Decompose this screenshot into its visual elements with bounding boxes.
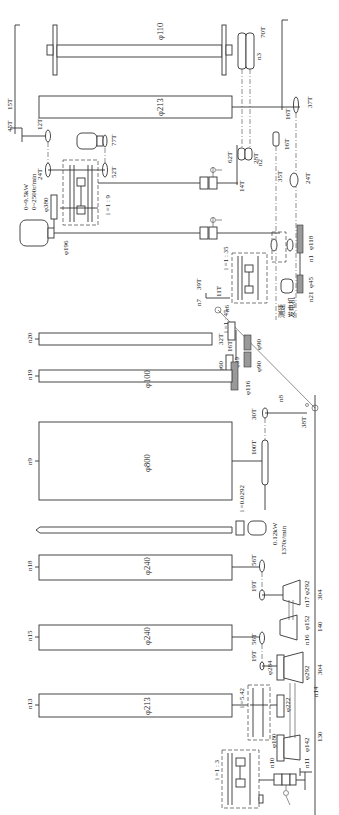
gear-100T-icon [262,440,268,485]
gear-cluster-n1-icon [271,239,277,251]
pulley-phi116-label: φ116 [244,380,252,395]
pivot-icon-38T [306,404,309,407]
gear-37T-icon [294,97,299,113]
needle-roller [36,527,232,533]
roller-phi110 [47,25,232,75]
roller-n13-label: φ213 [142,697,152,715]
small-motor-speed: 1370r/min [280,525,288,555]
main-motor-speed: 0~2500r/min [30,173,38,210]
gearbox-1-35 [232,253,267,303]
speed-n11-label: n11 [303,757,311,768]
gear-35T-label: 35T [276,170,284,182]
gearbox-1-3-ratio: i =1 : 3 [213,759,221,780]
gear-70T-label: 70T [259,26,267,38]
gear-24T-icon-b [290,173,298,187]
gear-56T-label-b: 56T [250,633,258,645]
gear-16T-label-c: 16T [226,340,234,352]
speed-n20-label: n20 [26,332,34,343]
gear-14T-label: 14T [238,180,246,192]
dimension-304-a: 304 [316,589,324,600]
gear-16T-label-b: 16T [283,138,291,150]
speed-n8-label: n8 [277,395,285,403]
small-motor-ratio: i =0.0292 [238,485,246,512]
gear-52T-label: 52T [110,166,118,178]
roller-top-phi213-label: φ213 [155,98,165,116]
gear-62T-label: 62T [226,151,234,163]
gear-100T-label: 100T [250,440,258,456]
speed-n10-label: n10 [268,757,276,768]
gearbox-1-3 [222,750,263,808]
pulley-phi90-b [244,352,251,367]
gear-15T-label: 15T [6,98,14,110]
gear-39T-label: 39T [195,278,203,290]
speed-n7-label: n7 [195,299,203,307]
speed-n1-label: n1 [307,255,315,263]
drum-n9-label: φ800 [142,454,152,472]
small-motor-power: 0.12kW [271,522,279,545]
pulley-phi90-label-b: φ90 [255,360,263,372]
drum-n9 [39,422,232,500]
speed-n14-label: n14 [312,686,320,697]
pulley-phi292-label-b: φ292 [303,665,311,680]
gear-77T-label: 77T [110,134,118,146]
gear-12T-icon [46,130,51,142]
pulley-phi380-label: φ380 [42,197,50,212]
gear-11T-label: 11T [215,285,223,297]
small-motor-icon [248,521,266,535]
tachogenerator-label-1: 测速 [278,304,286,318]
pulley-phi284 [277,655,284,680]
speed-n16-label: n16 [303,634,311,645]
gearbox-5-42 [248,685,270,740]
pulley-phi196-label: φ196 [62,240,70,255]
gear-motor-77T-icon [77,133,107,149]
dimension-130: 130 [316,731,324,742]
speed-n9-label: n9 [26,458,34,466]
pulley-phi45-label: φ45 [307,276,315,288]
main-motor-power: 0~9.5kW [22,183,30,210]
dimension-304-b: 304 [316,664,324,675]
pulley-phi380 [51,195,57,219]
brake-coupling-bottom [274,774,296,805]
gear-16T-icon-b [273,132,279,146]
gear-37T-label: 37T [306,96,314,108]
right-shaft-16T-37T [282,20,288,110]
tachogenerator-label-2: 发电机 [287,297,296,318]
pulley-phi90-label-a: φ90 [255,338,263,350]
roller-n15-label: φ240 [142,627,152,645]
gear-56T-label-a: 56T [250,554,258,566]
gear-30T-label: 30T [250,408,258,420]
gear-45T-label: 45T [6,120,14,132]
roller-n18-label: φ240 [142,557,152,575]
roller-n19 [39,370,232,382]
roller-phi110-label: φ110 [155,23,165,40]
brake-coupling-upper [200,167,222,189]
roller-n18 [39,555,232,580]
pulley-phi152-label: φ152 [303,615,311,630]
main-motor-icon [20,220,54,246]
speed-n3-label: n3 [255,53,263,61]
gear-32T-label: 32T [217,333,225,345]
pulley-phi45 [297,275,303,293]
brake-coupling-lower [200,217,222,239]
pulley-phi292-label-a: φ292 [303,580,311,595]
pulley-phi90-a [244,335,251,350]
gear-38T-label: 38T [300,416,308,428]
speed-n18-label: n18 [26,560,34,571]
gear-16T-label-a: 16T [284,108,292,120]
gear-24T-label-b: 24T [304,172,312,184]
cone-pulley-n14 [284,652,303,683]
gearbox-1-35-ratio: i =1 : 35 [222,246,230,270]
pulley-phi118-label: φ118 [307,235,315,250]
gear-cluster-n1-icon-b [287,239,293,251]
cone-pulley-n16 [280,615,297,640]
roller-n13 [39,694,232,717]
gear-19T-label-b: 19T [250,650,258,662]
pulley-phi118 [297,225,303,253]
speed-n17-label: n17 [303,596,311,607]
cone-pulley-n10-n11 [284,735,300,760]
speed-n19-label: n19 [26,369,34,380]
gear-56T-icon-a [260,560,265,572]
cone-pulley-n17 [283,580,300,605]
gearbox-1-9-ratio: i =1 : 9 [104,194,112,215]
speed-n15-label: n15 [26,630,34,641]
